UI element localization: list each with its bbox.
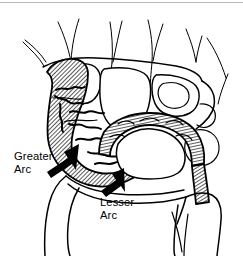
bone-hamate <box>152 75 199 116</box>
radius-shaft-left <box>45 176 66 256</box>
radius-shaft-right <box>68 188 79 256</box>
lesser-arc-right-limb <box>192 164 209 204</box>
metacarpal-stem-1 <box>25 40 46 62</box>
lesser-arc-region <box>99 113 209 204</box>
carpal-arcs-diagram: Greater Arc Lesser Arc <box>0 0 243 256</box>
metacarpal-stem-3b <box>113 21 122 62</box>
bone-lunate-cavity <box>116 129 185 179</box>
greater-arc-label-line2: Arc <box>14 163 31 175</box>
metacarpal-stem-5b <box>196 36 202 62</box>
metacarpal-stem-5 <box>186 29 196 62</box>
figure-container: Greater Arc Lesser Arc <box>0 0 243 256</box>
greater-arc-label-line1: Greater <box>14 150 53 162</box>
ulna-shaft-right <box>184 214 188 256</box>
bone-right-lobe <box>197 104 215 128</box>
hand-right-lateral-edge <box>196 81 214 129</box>
lesser-arc-label-line1: Lesser <box>100 196 134 208</box>
metacarpal-stem-1b <box>23 42 44 66</box>
metacarpal-stem-5c <box>207 38 226 78</box>
ulna-styloid <box>177 197 186 224</box>
metacarpal-stem-3 <box>110 22 112 63</box>
lesser-arc-label-line2: Arc <box>100 209 117 221</box>
metacarpal-stem-4b <box>153 24 163 61</box>
metacarpal-stem-5d <box>218 74 228 104</box>
metacarpal-stem-2b <box>71 19 79 61</box>
metacarpal-stem-4 <box>148 20 152 62</box>
metacarpal-stem-2 <box>58 22 71 62</box>
